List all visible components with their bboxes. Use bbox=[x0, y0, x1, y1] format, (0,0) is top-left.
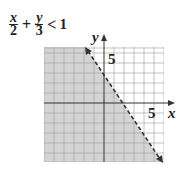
x-tick-label: 5 bbox=[148, 105, 156, 121]
y-axis-arrow-icon bbox=[101, 34, 107, 41]
y-tick-label: 5 bbox=[108, 51, 116, 67]
graph: 5 5 y x bbox=[0, 0, 179, 172]
x-axis-label: x bbox=[167, 105, 176, 121]
y-axis-label: y bbox=[90, 29, 99, 45]
